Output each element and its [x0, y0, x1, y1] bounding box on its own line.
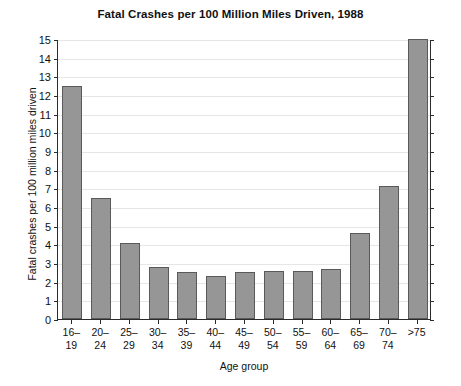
y-tick-mark [54, 133, 58, 134]
bar-chart: Fatal Crashes per 100 Million Miles Driv… [0, 0, 461, 386]
y-tick-label: 11 [40, 109, 51, 121]
y-tick-mark [54, 301, 58, 302]
y-tick-mark [54, 115, 58, 116]
y-tick-mark [54, 77, 58, 78]
y-tick-mark-right [430, 227, 434, 228]
x-axis-title: Age group [57, 360, 431, 372]
gridline [58, 133, 430, 134]
y-tick-label: 13 [39, 71, 51, 83]
y-tick-label: 10 [39, 127, 51, 139]
x-tick-mark [359, 320, 360, 324]
gridline [58, 208, 430, 209]
y-tick-label: 1 [45, 295, 51, 307]
x-tick-mark [100, 320, 101, 324]
gridline [58, 77, 430, 78]
bar [321, 269, 341, 319]
y-tick-label: 4 [45, 239, 51, 251]
gridline [58, 227, 430, 228]
x-tick-mark [215, 320, 216, 324]
y-tick-label: 0 [45, 314, 51, 326]
y-tick-label: 2 [45, 277, 51, 289]
y-tick-mark-right [430, 245, 434, 246]
y-tick-mark-right [430, 77, 434, 78]
y-tick-label: 5 [45, 221, 51, 233]
bar [62, 86, 82, 319]
gridline [58, 189, 430, 190]
bar [91, 198, 111, 319]
gridline [58, 115, 430, 116]
bar [408, 39, 428, 319]
plot-area: 0123456789101112131415 [57, 40, 431, 320]
gridline [58, 40, 430, 41]
y-tick-label: 3 [45, 258, 51, 270]
bar [177, 272, 197, 319]
y-tick-mark [54, 59, 58, 60]
x-tick-mark [244, 320, 245, 324]
bar [206, 276, 226, 319]
x-tick-label: 25– 29 [115, 326, 144, 351]
bar [379, 186, 399, 319]
y-tick-label: 9 [45, 146, 51, 158]
y-tick-mark [54, 152, 58, 153]
y-tick-mark-right [430, 283, 434, 284]
y-tick-mark [54, 320, 58, 321]
bar [235, 272, 255, 319]
x-tick-mark [129, 320, 130, 324]
x-tick-label: 20– 24 [86, 326, 115, 351]
gridline [58, 264, 430, 265]
x-tick-mark [158, 320, 159, 324]
y-tick-mark-right [430, 133, 434, 134]
y-tick-mark [54, 189, 58, 190]
y-tick-mark-right [430, 301, 434, 302]
x-tick-mark [71, 320, 72, 324]
bar [350, 233, 370, 319]
x-tick-label: 65– 69 [345, 326, 374, 351]
y-tick-mark-right [430, 59, 434, 60]
x-tick-label: 50– 54 [258, 326, 287, 351]
x-tick-mark [273, 320, 274, 324]
y-tick-mark [54, 264, 58, 265]
y-tick-mark-right [430, 320, 434, 321]
y-tick-mark [54, 96, 58, 97]
x-tick-mark [417, 320, 418, 324]
x-tick-mark [388, 320, 389, 324]
y-tick-mark-right [430, 208, 434, 209]
bar [264, 271, 284, 319]
x-tick-label: 35– 39 [172, 326, 201, 351]
y-tick-label: 15 [39, 34, 51, 46]
x-tick-label: 16– 19 [57, 326, 86, 351]
y-tick-mark-right [430, 189, 434, 190]
x-tick-label: 60– 64 [316, 326, 345, 351]
x-tick-label: 40– 44 [201, 326, 230, 351]
gridline [58, 171, 430, 172]
y-tick-label: 6 [45, 202, 51, 214]
x-tick-mark [330, 320, 331, 324]
y-tick-mark [54, 283, 58, 284]
chart-title: Fatal Crashes per 100 Million Miles Driv… [0, 8, 461, 20]
y-tick-label: 7 [45, 183, 51, 195]
y-tick-mark [54, 40, 58, 41]
x-tick-label: 45– 49 [230, 326, 259, 351]
x-tick-mark [302, 320, 303, 324]
x-tick-label: >75 [402, 326, 431, 339]
gridline [58, 96, 430, 97]
y-tick-label: 8 [45, 165, 51, 177]
y-tick-mark-right [430, 40, 434, 41]
x-tick-label: 30– 34 [143, 326, 172, 351]
y-tick-mark [54, 227, 58, 228]
gridline [58, 245, 430, 246]
gridline [58, 59, 430, 60]
y-tick-mark [54, 245, 58, 246]
bar [293, 271, 313, 319]
bar [120, 243, 140, 319]
x-tick-label: 70– 74 [373, 326, 402, 351]
gridline [58, 152, 430, 153]
x-tick-mark [186, 320, 187, 324]
y-tick-mark-right [430, 96, 434, 97]
y-tick-label: 12 [39, 90, 51, 102]
y-tick-mark-right [430, 264, 434, 265]
y-axis-title: Fatal crashes per 100 million miles driv… [26, 54, 38, 314]
bar [149, 267, 169, 319]
y-tick-mark [54, 208, 58, 209]
y-tick-mark-right [430, 171, 434, 172]
